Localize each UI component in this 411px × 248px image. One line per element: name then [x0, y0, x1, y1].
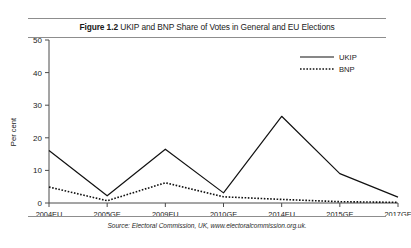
x-axis-ticks: 2004EU2005GE2009EU2010GE2014EU2015GE2017…: [36, 203, 411, 216]
y-axis-title: Per cent: [9, 117, 18, 146]
y-tick-label: 50: [33, 37, 42, 45]
title-rule-top: [28, 18, 386, 19]
y-tick-label: 40: [33, 69, 42, 78]
y-tick-label: 0: [38, 199, 43, 208]
figure-container: Figure 1.2 UKIP and BNP Share of Votes i…: [0, 0, 411, 248]
y-tick-label: 10: [33, 166, 42, 175]
legend-label-ukip: UKIP: [339, 53, 357, 62]
figure-number: Figure 1.2: [79, 22, 118, 32]
y-axis-ticks: 01020304050: [33, 37, 49, 208]
line-chart-svg: 01020304050 2004EU2005GE2009EU2010GE2014…: [0, 37, 411, 216]
series-line-ukip: [49, 116, 398, 197]
y-tick-label: 30: [33, 101, 42, 110]
source-rule-top: [28, 216, 386, 217]
x-tick-label: 2017GE: [384, 210, 411, 216]
data-series-group: [49, 116, 398, 202]
source-note: Source: Electoral Commission, UK, www.el…: [28, 222, 386, 229]
y-tick-label: 20: [33, 134, 42, 143]
chart-legend: UKIPBNP: [300, 53, 357, 74]
figure-title: Figure 1.2 UKIP and BNP Share of Votes i…: [28, 21, 386, 34]
legend-label-bnp: BNP: [339, 65, 355, 74]
x-axis: 2004EU2005GE2009EU2010GE2014EU2015GE2017…: [36, 203, 411, 216]
figure-title-text: UKIP and BNP Share of Votes in General a…: [120, 22, 334, 32]
chart-plot-area: 01020304050 2004EU2005GE2009EU2010GE2014…: [0, 37, 411, 216]
y-axis: 01020304050: [33, 37, 49, 208]
